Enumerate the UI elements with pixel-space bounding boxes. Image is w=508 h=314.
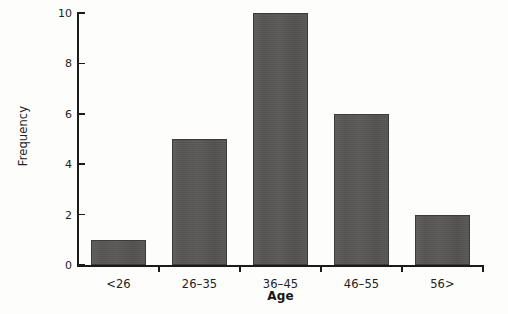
y-axis-tick — [78, 12, 85, 14]
y-axis-tick-labels: 0246810 — [44, 0, 72, 314]
y-axis-line — [77, 12, 79, 266]
bar — [334, 114, 389, 265]
plot-area: <2626–3536–4546–5556> — [78, 13, 483, 265]
x-axis-tick — [482, 265, 484, 272]
bar — [91, 240, 146, 265]
y-axis-tick-label: 6 — [46, 107, 72, 120]
y-axis-tick-label: 2 — [46, 208, 72, 221]
x-axis-title: Age — [78, 289, 483, 303]
x-axis-tick — [401, 265, 403, 272]
x-axis-tick — [158, 265, 160, 272]
bar — [172, 139, 227, 265]
y-axis-title-container: Frequency — [0, 0, 46, 272]
y-axis-tick-label: 10 — [46, 7, 72, 20]
x-axis-tick — [320, 265, 322, 272]
bar — [415, 215, 470, 265]
x-axis-tick — [239, 265, 241, 272]
y-axis-tick-label: 8 — [46, 57, 72, 70]
y-axis-tick — [78, 113, 85, 115]
x-axis-line — [77, 265, 483, 267]
y-axis-tick — [78, 214, 85, 216]
y-axis-tick-label: 0 — [46, 259, 72, 272]
y-axis-tick — [78, 63, 85, 65]
y-axis-title: Frequency — [16, 106, 30, 166]
bar-chart-figure: Frequency 0246810 <2626–3536–4546–5556> … — [0, 0, 508, 314]
y-axis-tick — [78, 163, 85, 165]
y-axis-tick — [78, 264, 85, 266]
y-axis-tick-label: 4 — [46, 158, 72, 171]
bar — [253, 13, 308, 265]
